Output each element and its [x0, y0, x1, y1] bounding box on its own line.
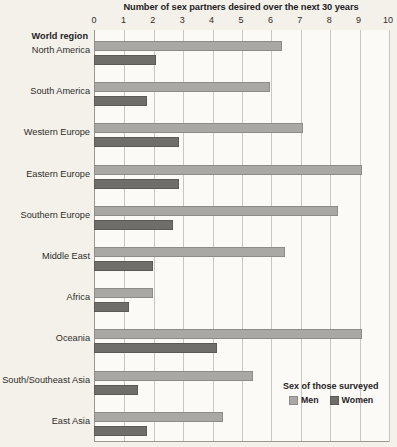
- chart-container: Number of sex partners desired over the …: [0, 0, 397, 447]
- category-label-6: Africa: [0, 292, 90, 302]
- chart-row: Africa: [0, 283, 397, 324]
- category-label-9: East Asia: [0, 416, 90, 426]
- x-tick-label-9: 9: [356, 15, 361, 25]
- bar-men-8: [94, 371, 253, 381]
- bar-women-1: [94, 96, 147, 106]
- bar-men-4: [94, 206, 338, 216]
- bar-women-7: [94, 343, 217, 353]
- category-label-2: Western Europe: [0, 127, 90, 137]
- x-tick-label-5: 5: [238, 15, 243, 25]
- category-label-0: North America: [0, 45, 90, 55]
- x-tick-label-8: 8: [327, 15, 332, 25]
- bar-men-2: [94, 123, 303, 133]
- bar-women-6: [94, 302, 129, 312]
- bar-men-1: [94, 82, 270, 92]
- chart-title: Number of sex partners desired over the …: [94, 2, 388, 12]
- category-label-7: Oceania: [0, 333, 90, 343]
- x-tick-label-1: 1: [121, 15, 126, 25]
- x-tick-label-2: 2: [150, 15, 155, 25]
- bar-women-3: [94, 179, 179, 189]
- bar-men-3: [94, 165, 362, 175]
- bar-men-7: [94, 329, 362, 339]
- x-tick-label-7: 7: [297, 15, 302, 25]
- bar-women-2: [94, 137, 179, 147]
- x-tick-label-10: 10: [383, 15, 393, 25]
- category-label-4: Southern Europe: [0, 210, 90, 220]
- chart-row: Middle East: [0, 242, 397, 283]
- bar-men-5: [94, 247, 285, 257]
- bar-men-6: [94, 288, 153, 298]
- chart-row: Southern Europe: [0, 201, 397, 242]
- bar-women-4: [94, 220, 173, 230]
- bar-men-9: [94, 412, 223, 422]
- bar-women-5: [94, 261, 153, 271]
- x-axis-tick-labels: 012345678910: [0, 15, 397, 29]
- category-label-8: South/Southeast Asia: [0, 375, 90, 385]
- x-tick-label-6: 6: [268, 15, 273, 25]
- chart-row: South America: [0, 77, 397, 118]
- chart-row: East Asia: [0, 407, 397, 447]
- chart-row: South/Southeast Asia: [0, 366, 397, 407]
- category-label-3: Eastern Europe: [0, 169, 90, 179]
- category-label-1: South America: [0, 86, 90, 96]
- bar-women-0: [94, 55, 156, 65]
- category-label-5: Middle East: [0, 251, 90, 261]
- chart-row: Western Europe: [0, 118, 397, 159]
- bar-women-8: [94, 385, 138, 395]
- x-tick-label-0: 0: [91, 15, 96, 25]
- chart-row: Oceania: [0, 324, 397, 365]
- x-tick-label-3: 3: [180, 15, 185, 25]
- chart-row: Eastern Europe: [0, 160, 397, 201]
- bar-women-9: [94, 426, 147, 436]
- x-tick-label-4: 4: [209, 15, 214, 25]
- bar-men-0: [94, 41, 282, 51]
- chart-row: North America: [0, 36, 397, 77]
